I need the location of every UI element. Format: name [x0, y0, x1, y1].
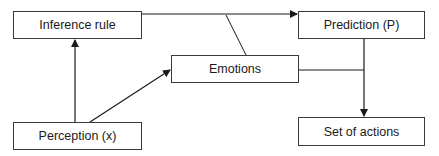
- node-label: Prediction (P): [324, 18, 400, 32]
- node-label: Set of actions: [324, 125, 400, 139]
- node-label: Perception (x): [39, 129, 117, 143]
- node-label: Inference rule: [39, 18, 115, 32]
- node-inference-rule: Inference rule: [13, 11, 142, 39]
- node-label: Emotions: [209, 62, 261, 76]
- node-prediction: Prediction (P): [298, 11, 425, 39]
- node-perception: Perception (x): [13, 122, 142, 150]
- edge-perception-to-emotions: [90, 70, 170, 122]
- edge-emotions-to-top-line: [226, 15, 246, 55]
- node-set-of-actions: Set of actions: [298, 117, 425, 146]
- node-emotions: Emotions: [171, 55, 299, 83]
